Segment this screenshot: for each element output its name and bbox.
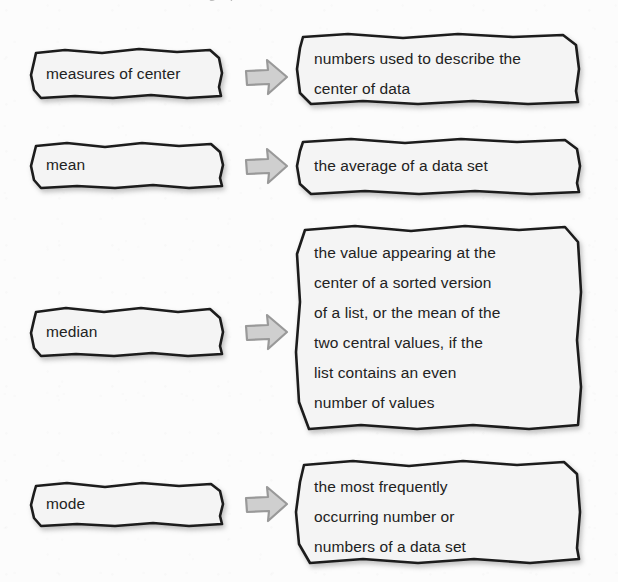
definition-text: the most frequently occurring number or … bbox=[314, 472, 466, 562]
term-box-mean: mean bbox=[27, 140, 228, 190]
right-block-arrow-icon bbox=[243, 484, 290, 524]
term-label: mode bbox=[46, 489, 85, 519]
definition-text: the average of a data set bbox=[314, 151, 488, 181]
term-label: median bbox=[46, 317, 97, 347]
right-block-arrow-icon bbox=[243, 312, 290, 352]
right-block-arrow-icon bbox=[243, 57, 290, 97]
definition-text: numbers used to describe the center of d… bbox=[314, 44, 521, 104]
term-box-measures-of-center: measures of center bbox=[27, 46, 228, 101]
right-block-arrow-icon bbox=[243, 146, 290, 186]
vocabulary-diagram-page: measures of center, and the graph measur… bbox=[0, 0, 618, 582]
term-box-mode: mode bbox=[27, 480, 228, 528]
term-label: mean bbox=[46, 150, 85, 180]
definition-text: the value appearing at the center of a s… bbox=[314, 238, 500, 418]
cropped-top-text-line: measures of center, and the graph bbox=[18, 0, 438, 7]
definition-box-mean: the average of a data set bbox=[293, 136, 585, 196]
definition-box-mode: the most frequently occurring number or … bbox=[293, 458, 585, 566]
term-box-median: median bbox=[27, 305, 228, 359]
definition-box-median: the value appearing at the center of a s… bbox=[293, 222, 585, 433]
definition-box-measures-of-center: numbers used to describe the center of d… bbox=[293, 31, 585, 107]
term-label: measures of center bbox=[46, 59, 180, 89]
